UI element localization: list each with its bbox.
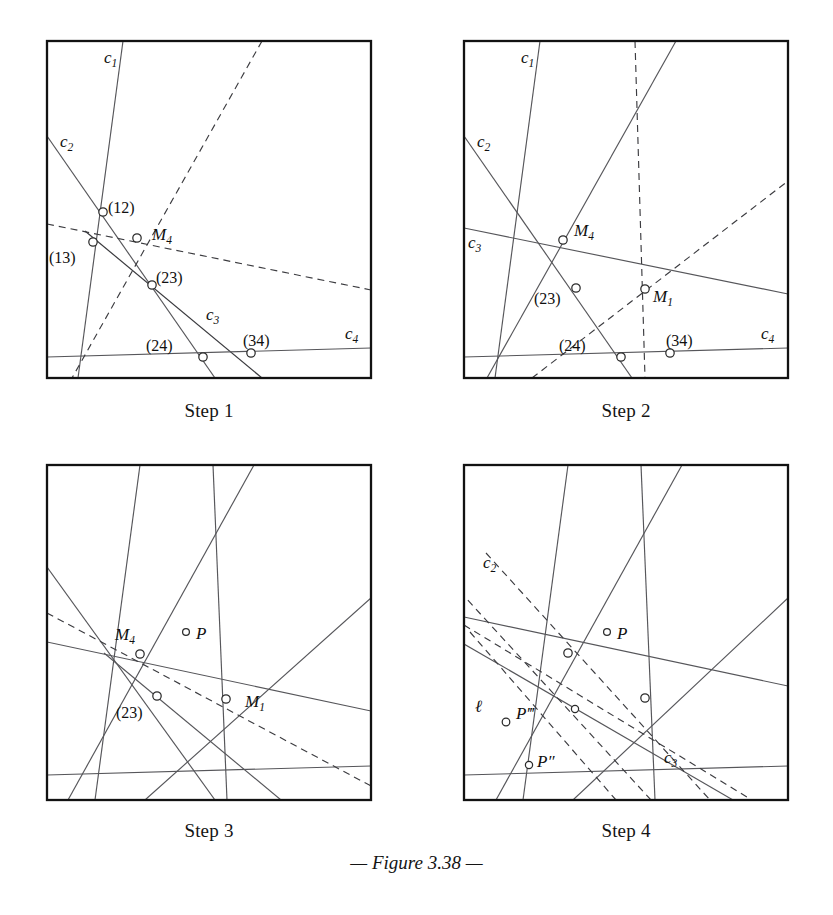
- panel-step2-canvas: c1 c2 c3 M4 (23) M1 (24) (34) c4: [0, 0, 833, 400]
- label-c2: c2: [477, 132, 491, 153]
- node-34: [666, 349, 674, 357]
- line-c1: [95, 465, 140, 800]
- label-c1: c1: [521, 48, 534, 69]
- label-23: (23): [534, 290, 561, 308]
- caption-step2: Step 2: [464, 400, 788, 422]
- line-dashed-4: [464, 596, 651, 800]
- panel-frame: [464, 41, 788, 378]
- node-23: [153, 692, 161, 700]
- line-aux-3: [573, 598, 788, 800]
- node-24: [617, 353, 625, 361]
- label-M4: M4: [573, 221, 594, 242]
- node-Pdoubleprime: [525, 761, 532, 768]
- label-ell: ℓ: [475, 697, 482, 716]
- step4-lines: [464, 465, 788, 800]
- line-c3: [464, 228, 788, 294]
- line-c2-dashed: [486, 553, 710, 800]
- panel-frame: [464, 465, 788, 800]
- label-c2: c2: [483, 553, 497, 574]
- label-c3: c3: [664, 748, 678, 769]
- line-c3: [47, 642, 371, 711]
- step3-lines: [47, 465, 371, 800]
- line-aux-4: [464, 644, 733, 800]
- node-M4: [136, 650, 144, 658]
- node-M1: [641, 694, 649, 702]
- node-M1: [222, 695, 230, 703]
- label-24: (24): [559, 337, 586, 355]
- node-M4: [559, 236, 567, 244]
- caption-step1: Step 1: [47, 400, 371, 422]
- panel-frame: [47, 465, 371, 800]
- node-23: [572, 284, 580, 292]
- label-c3: c3: [468, 233, 482, 254]
- label-M1: M1: [244, 692, 265, 713]
- step2-lines: [464, 41, 788, 378]
- line-aux-4: [145, 598, 371, 800]
- figure-container: c1 c2 (12) M4 (13) (23) c3 (24) (34) c4: [0, 0, 833, 915]
- label-23: (23): [116, 704, 143, 722]
- line-aux-2: [641, 465, 655, 800]
- node-P: [183, 629, 190, 636]
- node-P: [604, 629, 611, 636]
- line-c3: [464, 617, 788, 686]
- node-M4: [564, 649, 572, 657]
- line-aux-2: [213, 465, 227, 800]
- figure-caption: — Figure 3.38 —: [0, 852, 833, 874]
- caption-step3: Step 3: [47, 820, 371, 842]
- label-P-double-prime: P″: [536, 752, 555, 771]
- line-dashed-3: [464, 625, 752, 800]
- line-ell-dashed: [470, 632, 616, 800]
- label-P: P: [195, 624, 206, 643]
- label-P-triple-prime: P‴: [515, 704, 534, 723]
- label-34: (34): [666, 332, 693, 350]
- line-aux-1: [496, 465, 682, 800]
- panel-step2: c1 c2 c3 M4 (23) M1 (24) (34) c4: [0, 0, 833, 400]
- node-Ptripleprime: [502, 718, 510, 726]
- line-c1: [523, 465, 568, 800]
- line-c4: [464, 348, 788, 357]
- line-dashed-1: [635, 41, 645, 378]
- line-dashed-1: [47, 613, 371, 786]
- label-M4: M4: [114, 625, 135, 646]
- line-c4: [464, 766, 788, 775]
- line-aux-1: [68, 465, 254, 800]
- line-c1: [495, 41, 540, 378]
- label-P: P: [616, 624, 627, 643]
- label-c4: c4: [761, 324, 775, 345]
- line-c4: [47, 766, 371, 775]
- line-c2: [47, 567, 215, 800]
- line-aux-3: [104, 653, 281, 800]
- node-M1: [641, 285, 649, 293]
- node-mid: [571, 705, 578, 712]
- label-M1: M1: [652, 287, 673, 308]
- caption-step4: Step 4: [464, 820, 788, 842]
